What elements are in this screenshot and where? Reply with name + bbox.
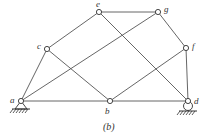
member-a-c xyxy=(21,49,47,101)
member-f-d xyxy=(186,48,188,101)
joint-e xyxy=(96,9,101,14)
joint-label-e: e xyxy=(96,0,100,9)
joint-g xyxy=(155,9,160,14)
joint-label-b: b xyxy=(105,106,110,116)
joint-label-c: c xyxy=(37,41,41,51)
joint-d xyxy=(185,98,190,103)
member-b-f xyxy=(110,48,186,101)
joint-label-f: f xyxy=(192,41,196,51)
joint-a xyxy=(18,98,23,103)
joint-label-d: d xyxy=(194,96,199,106)
joint-label-g: g xyxy=(164,4,169,14)
member-g-f xyxy=(158,12,186,48)
truss-svg: abcdefg (b) xyxy=(0,0,210,138)
member-a-g xyxy=(21,12,158,101)
truss-members xyxy=(21,12,188,101)
figure-caption: (b) xyxy=(103,121,115,133)
joint-b xyxy=(107,98,112,103)
joint-c xyxy=(44,46,49,51)
joint-f xyxy=(183,45,188,50)
supports xyxy=(10,101,197,115)
joint-label-a: a xyxy=(10,95,15,105)
truss-diagram: abcdefg (b) xyxy=(0,0,210,138)
member-e-d xyxy=(99,12,188,101)
truss-joints xyxy=(18,9,190,103)
member-c-b xyxy=(47,49,110,101)
member-c-e xyxy=(47,12,99,49)
